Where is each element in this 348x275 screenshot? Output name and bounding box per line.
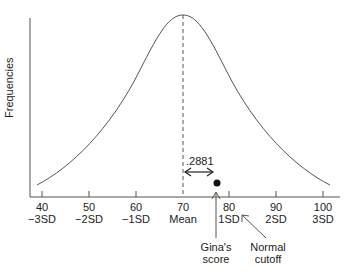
gina-score-label-line1: Gina's — [201, 241, 232, 253]
y-axis-label: Frequencies — [3, 57, 15, 118]
sd-label-neg3: −3SD — [28, 213, 56, 225]
tick-label-80: 80 — [223, 201, 235, 213]
sd-label-2: 2SD — [265, 213, 286, 225]
tick-label-70: 70 — [177, 201, 189, 213]
gina-score-label-line2: score — [203, 253, 230, 265]
sd-label-mean: Mean — [169, 213, 197, 225]
area-value-label: .2881 — [186, 155, 214, 167]
tick-label-60: 60 — [130, 201, 142, 213]
tick-label-40: 40 — [36, 201, 48, 213]
tick-label-90: 90 — [270, 201, 282, 213]
tick-label-100: 100 — [314, 201, 332, 213]
sd-label-neg1: −1SD — [122, 213, 150, 225]
normal-cutoff-label-line1: Normal — [250, 241, 285, 253]
tick-label-50: 50 — [83, 201, 95, 213]
sd-label-3: 3SD — [312, 213, 333, 225]
sd-label-1: 1SD — [218, 213, 239, 225]
cutoff-arrow-icon — [242, 215, 266, 238]
sd-label-neg2: −2SD — [75, 213, 103, 225]
normal-cutoff-label-line2: cutoff — [255, 253, 282, 265]
double-arrow-icon — [185, 168, 213, 176]
normal-curve-diagram — [0, 0, 348, 275]
gina-score-point — [214, 180, 221, 187]
